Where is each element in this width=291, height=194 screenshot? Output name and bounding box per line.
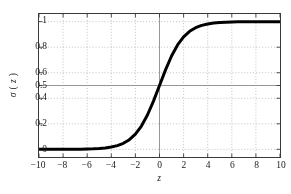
y-tick-label: 1 [42, 16, 47, 26]
sigmoid-chart-figure: −10−8−6−4−20246810 00.20.40.50.60.81 z σ… [0, 0, 291, 194]
x-tick-label: 6 [230, 161, 235, 171]
x-tick-label: −8 [57, 161, 67, 171]
x-tick-label: 4 [206, 161, 211, 171]
x-tick-label: −4 [106, 161, 116, 171]
plot-area [38, 13, 281, 158]
y-axis-title-variable: z [8, 79, 18, 83]
x-tick-label: 0 [157, 161, 162, 171]
x-tick-label: −6 [82, 161, 92, 171]
sigma-symbol: σ [8, 92, 18, 97]
x-tick-label: 2 [181, 161, 186, 171]
y-axis-title: σ ( z ) [9, 73, 19, 98]
y-axis-title-close-paren: ) [8, 73, 18, 77]
y-tick-label: 0.8 [35, 42, 47, 52]
y-tick-label: 0.2 [35, 120, 47, 130]
x-tick-label: 10 [276, 161, 286, 171]
x-tick-label: −10 [31, 161, 46, 171]
x-tick-label: −2 [130, 161, 140, 171]
y-axis-title-open-paren: ( [8, 86, 18, 90]
y-tick-label: 0 [42, 145, 47, 155]
x-axis-title: z [157, 174, 161, 184]
sigmoid-curve-layer [39, 14, 280, 157]
y-tick-label: 0.5 [35, 81, 47, 91]
y-tick-label: 0.4 [35, 94, 47, 104]
y-tick-label: 0.6 [35, 68, 47, 78]
x-tick-label: 8 [254, 161, 259, 171]
